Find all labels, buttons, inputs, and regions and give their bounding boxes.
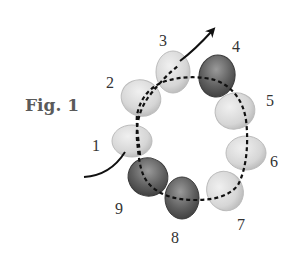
- bead-label-9: 9: [115, 200, 123, 217]
- bead-label-6: 6: [270, 153, 278, 170]
- figure-label: Fig. 1: [25, 95, 79, 115]
- bead-label-4: 4: [232, 38, 240, 55]
- bead-label-8: 8: [171, 229, 179, 246]
- bead-ring-diagram: Fig. 1 1 2 3 4 5 6 7 8 9: [0, 0, 301, 266]
- thread-entry: [84, 152, 125, 177]
- bead-label-7: 7: [237, 216, 245, 233]
- bead-1: [112, 125, 152, 157]
- thread-exit-arrow: [180, 31, 212, 61]
- bead-label-1: 1: [92, 137, 100, 154]
- bead-label-2: 2: [106, 74, 114, 91]
- bead-6: [226, 136, 266, 170]
- bead-8: [165, 177, 199, 219]
- bead-label-3: 3: [159, 32, 167, 49]
- bead-7: [200, 165, 250, 216]
- bead-label-5: 5: [266, 92, 274, 109]
- bead-4: [196, 52, 239, 100]
